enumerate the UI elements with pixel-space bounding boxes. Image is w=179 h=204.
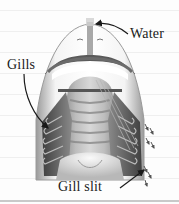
bottom-border	[0, 200, 179, 202]
gill-slit-label: Gill slit	[58, 180, 102, 194]
water-exit-arrows	[144, 124, 154, 186]
diagram-canvas: Water Gills Gill slit	[0, 0, 179, 204]
water-label: Water	[130, 27, 164, 41]
gills-label: Gills	[7, 58, 35, 72]
belly	[56, 153, 124, 181]
